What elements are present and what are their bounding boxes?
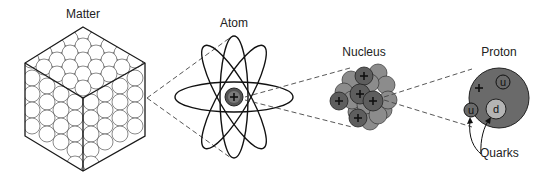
matter-scale-diagram: Matter Atom <box>0 0 539 174</box>
zoom-connector-nucleus-proton <box>384 69 472 127</box>
quarks-label: Quarks <box>480 146 519 160</box>
quark-down: d <box>486 99 506 119</box>
quark-up-1: u <box>496 75 510 89</box>
proton: u u d <box>464 68 529 154</box>
atom-label: Atom <box>220 16 248 30</box>
svg-text:d: d <box>493 103 499 115</box>
nucleus-proton <box>355 67 373 85</box>
nucleus-label: Nucleus <box>342 45 385 59</box>
proton-label: Proton <box>481 45 516 59</box>
nucleus-proton <box>330 92 348 110</box>
zoom-connector-matter-atom <box>147 37 231 158</box>
atom <box>175 36 293 158</box>
svg-text:u: u <box>468 104 474 116</box>
matter-cube <box>23 24 145 172</box>
matter-label: Matter <box>66 7 100 21</box>
quark-up-2: u <box>464 103 478 117</box>
nucleus-proton <box>349 109 367 127</box>
nucleus-proton <box>363 91 383 111</box>
svg-text:u: u <box>500 76 506 88</box>
nucleus <box>330 64 397 130</box>
